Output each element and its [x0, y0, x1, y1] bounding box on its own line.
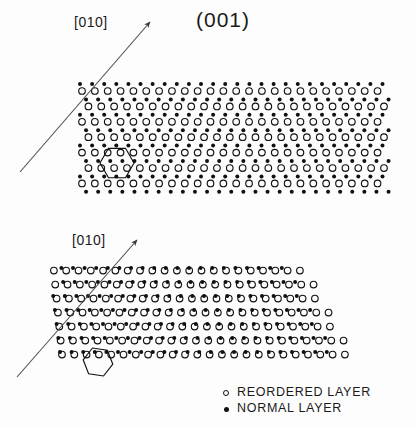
reordered-layer-point — [223, 267, 230, 274]
normal-layer-point — [151, 174, 155, 178]
reordered-layer-point — [297, 180, 304, 187]
reordered-layer-point — [355, 134, 362, 141]
normal-layer-point — [356, 144, 360, 148]
reordered-layer-point — [149, 134, 156, 141]
reordered-layer-point — [361, 180, 368, 187]
normal-layer-point — [368, 82, 372, 86]
reordered-layer-point — [297, 119, 304, 126]
reordered-layer-point — [143, 119, 150, 126]
normal-layer-point — [217, 159, 221, 163]
reordered-layer-point — [92, 180, 99, 187]
reordered-layer-point — [55, 309, 62, 316]
reordered-layer-point — [310, 119, 317, 126]
normal-layer-point — [181, 159, 185, 163]
normal-layer-point — [387, 159, 391, 163]
normal-layer-point — [157, 128, 161, 132]
normal-layer-point — [101, 322, 105, 326]
normal-layer-point — [241, 97, 245, 101]
normal-layer-point — [290, 97, 294, 101]
normal-layer-point — [344, 144, 348, 148]
normal-layer-point — [151, 113, 155, 117]
normal-layer-point — [272, 174, 276, 178]
normal-layer-point — [114, 113, 118, 117]
reordered-layer-point — [252, 165, 259, 172]
reordered-layer-point — [374, 180, 381, 187]
reordered-layer-point — [169, 119, 176, 126]
reordered-layer-point — [250, 295, 257, 302]
reordered-layer-point — [349, 88, 356, 95]
reordered-layer-point — [239, 134, 246, 141]
reordered-layer-point — [279, 337, 286, 344]
normal-layer-point — [139, 174, 143, 178]
normal-layer-point — [175, 174, 179, 178]
reordered-layer-point — [220, 180, 227, 187]
reordered-layer-point — [182, 119, 189, 126]
open-circle-icon — [219, 385, 233, 399]
normal-layer-point — [308, 308, 312, 312]
reordered-layer-point — [117, 119, 124, 126]
normal-layer-point — [73, 280, 77, 284]
reordered-layer-point — [85, 103, 92, 110]
reordered-layer-point — [194, 119, 201, 126]
reordered-layer-point — [259, 119, 266, 126]
reordered-layer-point — [271, 149, 278, 156]
reordered-layer-point — [340, 337, 347, 344]
normal-layer-point — [139, 350, 143, 354]
normal-layer-point — [266, 97, 270, 101]
reordered-layer-point — [265, 103, 272, 110]
normal-layer-point — [120, 159, 124, 163]
reordered-layer-point — [381, 134, 388, 141]
reordered-layer-point — [298, 281, 305, 288]
normal-layer-point — [332, 144, 336, 148]
reordered-layer-point — [342, 103, 349, 110]
reordered-layer-point — [264, 309, 271, 316]
reordered-layer-point — [169, 88, 176, 95]
normal-layer-point — [99, 308, 103, 312]
normal-layer-point — [120, 190, 124, 194]
reordered-layer-point — [143, 337, 150, 344]
reordered-layer-point — [312, 295, 319, 302]
reordered-layer-point — [329, 351, 336, 358]
normal-layer-point — [83, 266, 87, 270]
reordered-layer-point — [239, 103, 246, 110]
normal-layer-point — [103, 336, 107, 340]
normal-layer-point — [132, 97, 136, 101]
reordered-layer-point — [85, 134, 92, 141]
reordered-layer-point — [137, 165, 144, 172]
normal-layer-point — [338, 190, 342, 194]
reordered-layer-point — [169, 351, 176, 358]
reordered-layer-point — [313, 309, 320, 316]
normal-layer-point — [387, 190, 391, 194]
reordered-layer-point — [265, 134, 272, 141]
normal-layer-point — [350, 190, 354, 194]
panel-top-lattice — [78, 82, 391, 194]
reordered-layer-point — [111, 134, 118, 141]
normal-layer-point — [223, 113, 227, 117]
reordered-layer-point — [103, 295, 110, 302]
normal-layer-point — [114, 82, 118, 86]
normal-layer-point — [211, 174, 215, 178]
normal-layer-point — [374, 97, 378, 101]
normal-layer-point — [126, 82, 130, 86]
normal-layer-point — [98, 294, 102, 298]
normal-layer-point — [205, 190, 209, 194]
normal-layer-point — [126, 144, 130, 148]
reordered-layer-point — [79, 180, 86, 187]
reordered-layer-point — [310, 281, 317, 288]
normal-layer-point — [132, 128, 136, 132]
normal-layer-point — [181, 97, 185, 101]
reordered-layer-point — [112, 267, 119, 274]
reordered-layer-point — [182, 180, 189, 187]
normal-layer-point — [241, 190, 245, 194]
normal-layer-point — [278, 159, 282, 163]
normal-layer-point — [139, 113, 143, 117]
reordered-layer-point — [328, 337, 335, 344]
reordered-layer-point — [180, 337, 187, 344]
normal-layer-point — [308, 174, 312, 178]
reordered-layer-point — [130, 88, 137, 95]
reordered-layer-point — [182, 88, 189, 95]
reordered-layer-point — [118, 323, 125, 330]
normal-layer-point — [344, 174, 348, 178]
normal-layer-point — [175, 82, 179, 86]
reordered-layer-point — [310, 88, 317, 95]
